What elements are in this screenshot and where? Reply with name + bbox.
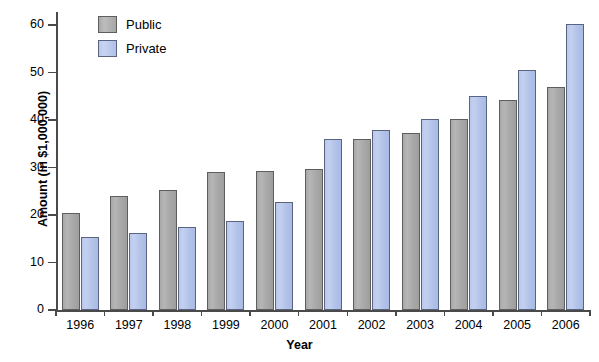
legend-swatch-private-icon (98, 40, 117, 57)
x-tick-mark (55, 310, 57, 316)
x-tick-label: 1998 (163, 318, 191, 332)
y-tick-mark (48, 167, 56, 169)
legend-label: Public (126, 17, 161, 32)
bar-public-1999 (207, 172, 225, 310)
bar-public-2004 (450, 119, 468, 310)
bar-private-1996 (81, 237, 99, 310)
bar-private-2006 (566, 24, 584, 310)
x-tick-mark (104, 310, 106, 316)
chart-legend: PublicPrivate (98, 14, 166, 62)
legend-item-public: Public (98, 14, 166, 35)
x-tick-mark (541, 310, 543, 316)
legend-item-private: Private (98, 38, 166, 59)
x-axis-line (56, 310, 591, 312)
x-tick-label: 2001 (309, 318, 337, 332)
x-tick-label: 2006 (552, 318, 580, 332)
bar-public-1996 (62, 213, 80, 310)
bar-public-1998 (159, 190, 177, 310)
y-tick-label: 20 (0, 207, 44, 221)
bar-chart: Amount (in $1,000,000) Year 010203040506… (0, 0, 599, 362)
x-tick-mark (152, 310, 154, 316)
bar-public-2005 (499, 100, 517, 310)
bar-private-2004 (469, 96, 487, 310)
y-tick-label: 40 (0, 112, 44, 126)
x-tick-mark (201, 310, 203, 316)
x-tick-label: 2004 (455, 318, 483, 332)
y-tick-label: 30 (0, 160, 44, 174)
y-tick-mark (48, 72, 56, 74)
x-axis-title: Year (0, 338, 599, 352)
bar-private-2000 (275, 202, 293, 310)
bar-public-2003 (402, 133, 420, 310)
x-tick-mark (249, 310, 251, 316)
x-tick-mark (589, 310, 591, 316)
bar-private-2002 (372, 130, 390, 310)
bar-private-1997 (129, 233, 147, 310)
x-tick-mark (347, 310, 349, 316)
y-tick-label: 60 (0, 17, 44, 31)
x-tick-mark (444, 310, 446, 316)
x-tick-label: 2000 (261, 318, 289, 332)
bar-private-2005 (518, 70, 536, 310)
y-tick-mark (48, 214, 56, 216)
y-tick-mark (48, 262, 56, 264)
bar-public-1997 (110, 196, 128, 310)
bar-public-2002 (353, 139, 371, 310)
bar-public-2006 (547, 87, 565, 310)
x-tick-label: 1997 (115, 318, 143, 332)
x-tick-mark (298, 310, 300, 316)
y-tick-label: 10 (0, 255, 44, 269)
y-tick-mark (48, 119, 56, 121)
x-tick-mark (492, 310, 494, 316)
legend-swatch-public-icon (98, 16, 117, 33)
bar-public-2001 (305, 169, 323, 310)
x-tick-label: 1996 (66, 318, 94, 332)
bar-public-2000 (256, 171, 274, 310)
x-tick-label: 2003 (406, 318, 434, 332)
bar-private-2001 (324, 139, 342, 310)
x-tick-mark (395, 310, 397, 316)
bar-private-1998 (178, 227, 196, 310)
x-tick-label: 1999 (212, 318, 240, 332)
y-tick-label: 50 (0, 65, 44, 79)
legend-label: Private (126, 41, 166, 56)
bar-private-2003 (421, 119, 439, 310)
y-tick-label: 0 (0, 302, 44, 316)
y-tick-mark (48, 24, 56, 26)
x-tick-label: 2005 (503, 318, 531, 332)
x-tick-label: 2002 (358, 318, 386, 332)
bar-private-1999 (226, 221, 244, 310)
